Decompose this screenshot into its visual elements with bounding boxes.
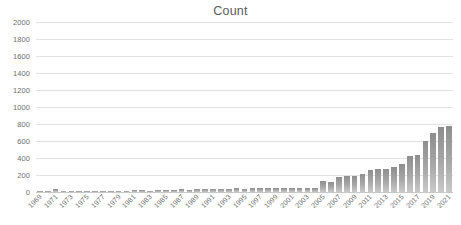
bar-series <box>36 22 453 192</box>
bar <box>360 174 366 192</box>
y-tick-label-600: 600 <box>17 137 30 146</box>
x-tick-label-2001: 2001 <box>278 193 294 209</box>
y-tick-label-400: 400 <box>17 154 30 163</box>
x-tick-label-2005: 2005 <box>310 193 326 209</box>
x-tick-label-2017: 2017 <box>404 193 420 209</box>
x-tick-label-1973: 1973 <box>58 193 74 209</box>
plot-area <box>36 22 453 192</box>
y-tick-label-1000: 1000 <box>13 103 30 112</box>
x-tick-label-1995: 1995 <box>231 193 247 209</box>
y-tick-label-2000: 2000 <box>13 18 30 27</box>
bar <box>375 169 381 192</box>
bar <box>446 126 452 192</box>
y-tick-label-800: 800 <box>17 120 30 129</box>
bar <box>399 164 405 192</box>
bar <box>391 167 397 193</box>
x-tick-label-2011: 2011 <box>357 193 373 209</box>
bar <box>383 169 389 192</box>
x-tick-label-2003: 2003 <box>294 193 310 209</box>
y-tick-label-1800: 1800 <box>13 35 30 44</box>
chart-title: Count <box>0 4 461 18</box>
y-tick-label-1400: 1400 <box>13 69 30 78</box>
x-tick-label-1989: 1989 <box>184 193 200 209</box>
x-tick-label-1975: 1975 <box>74 193 90 209</box>
bar <box>368 170 374 192</box>
x-tick-label-1981: 1981 <box>121 193 137 209</box>
bar <box>336 177 342 192</box>
y-axis-tick-labels: 0200400600800100012001400160018002000 <box>0 22 34 192</box>
x-tick-label-1987: 1987 <box>168 193 184 209</box>
x-tick-label-2009: 2009 <box>341 193 357 209</box>
bar <box>430 133 436 192</box>
x-tick-label-1997: 1997 <box>247 193 263 209</box>
y-tick-label-1200: 1200 <box>13 86 30 95</box>
y-tick-label-0: 0 <box>26 188 30 197</box>
x-tick-label-2013: 2013 <box>373 193 389 209</box>
bar <box>328 182 334 192</box>
y-tick-label-1600: 1600 <box>13 52 30 61</box>
y-tick-label-200: 200 <box>17 171 30 180</box>
bar <box>415 155 421 192</box>
bar <box>352 176 358 192</box>
x-tick-label-2015: 2015 <box>389 193 405 209</box>
bar <box>423 141 429 192</box>
bar <box>344 176 350 192</box>
x-tick-label-1971: 1971 <box>42 193 58 209</box>
x-axis-tick-labels: 1969197119731975197719791981198319851987… <box>36 193 453 225</box>
bar <box>407 156 413 192</box>
x-tick-label-1979: 1979 <box>105 193 121 209</box>
bar <box>320 181 326 192</box>
x-tick-label-1991: 1991 <box>200 193 216 209</box>
x-tick-label-2021: 2021 <box>436 193 452 209</box>
bar-chart: Count 0200400600800100012001400160018002… <box>0 0 461 225</box>
x-tick-label-1993: 1993 <box>215 193 231 209</box>
x-tick-label-1999: 1999 <box>263 193 279 209</box>
x-tick-label-1977: 1977 <box>90 193 106 209</box>
bar <box>438 127 444 192</box>
x-tick-label-2007: 2007 <box>326 193 342 209</box>
x-tick-label-1985: 1985 <box>153 193 169 209</box>
x-tick-label-2019: 2019 <box>420 193 436 209</box>
x-tick-label-1983: 1983 <box>137 193 153 209</box>
